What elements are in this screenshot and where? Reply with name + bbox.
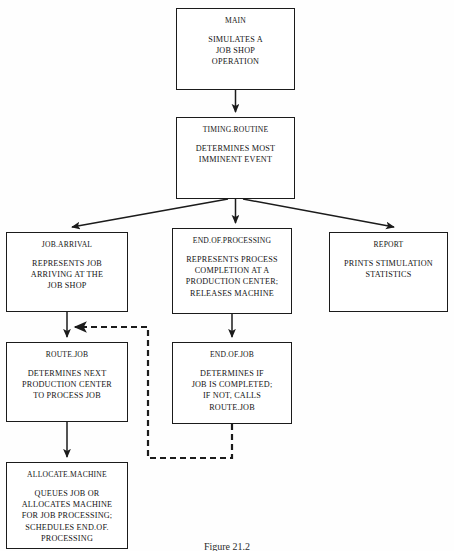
node-body-line: ALLOCATES MACHINE (22, 499, 113, 510)
node-body-line: RELEASES MACHINE (186, 288, 279, 299)
node-body-main: SIMULATES AJOB SHOPOPERATION (204, 34, 267, 68)
flowchart-canvas: MAINSIMULATES AJOB SHOPOPERATIONTIMING.R… (0, 0, 454, 551)
node-body-end-of-processing: REPRESENTS PROCESSCOMPLETION AT APRODUCT… (182, 254, 283, 299)
node-body-end-of-job: DETERMINES IFJOB IS COMPLETED;IF NOT, CA… (188, 368, 277, 413)
node-title-allocate-machine: ALLOCATE.MACHINE (27, 470, 107, 480)
node-title-report: REPORT (374, 240, 404, 250)
node-body-line: TO PROCESS JOB (22, 390, 112, 401)
node-body-job-arrival: REPRESENTS JOBARRIVING AT THEJOB SHOP (27, 258, 107, 292)
node-body-line: REPRESENTS PROCESS (186, 254, 279, 265)
node-body-line: JOB SHOP (208, 45, 263, 56)
node-title-job-arrival: JOB.ARRIVAL (42, 240, 92, 250)
node-body-line: OPERATION (208, 56, 263, 67)
node-body-line: PRODUCTION CENTER; (186, 276, 279, 287)
node-job-arrival: JOB.ARRIVALREPRESENTS JOBARRIVING AT THE… (6, 232, 128, 312)
node-body-line: DETERMINES MOST (196, 143, 276, 154)
node-title-timing-routine: TIMING.ROUTINE (203, 125, 268, 135)
node-timing-routine: TIMING.ROUTINEDETERMINES MOSTIMMINENT EV… (176, 117, 295, 199)
figure-caption: Figure 21.2 (0, 541, 454, 551)
node-body-line: SIMULATES A (208, 34, 263, 45)
node-body-allocate-machine: QUEUES JOB ORALLOCATES MACHINEFOR JOB PR… (18, 488, 117, 544)
node-body-timing-routine: DETERMINES MOSTIMMINENT EVENT (192, 143, 280, 165)
node-title-route-job: ROUTE.JOB (46, 350, 89, 360)
node-body-line: DETERMINES IF (192, 368, 273, 379)
node-main: MAINSIMULATES AJOB SHOPOPERATION (176, 8, 295, 90)
node-body-line: REPRESENTS JOB (31, 258, 103, 269)
node-body-line: DETERMINES NEXT (22, 368, 112, 379)
node-title-end-of-job: END.OF.JOB (210, 350, 254, 360)
node-route-job: ROUTE.JOBDETERMINES NEXTPRODUCTION CENTE… (6, 342, 128, 422)
node-body-line: ARRIVING AT THE (31, 269, 103, 280)
node-body-line: SCHEDULES END.OF. (22, 522, 113, 533)
node-body-line: JOB IS COMPLETED; (192, 379, 273, 390)
node-body-line: ROUTE.JOB (192, 402, 273, 413)
node-body-line: PRODUCTION CENTER (22, 379, 112, 390)
node-body-route-job: DETERMINES NEXTPRODUCTION CENTERTO PROCE… (18, 368, 116, 402)
node-body-report: PRINTS STIMULATIONSTATISTICS (340, 258, 437, 280)
node-body-line: IF NOT, CALLS (192, 390, 273, 401)
node-body-line: IMMINENT EVENT (196, 154, 276, 165)
node-body-line: QUEUES JOB OR (22, 488, 113, 499)
node-body-line: PRINTS STIMULATION (344, 258, 433, 269)
node-end-of-processing: END.OF.PROCESSINGREPRESENTS PROCESSCOMPL… (172, 228, 292, 314)
node-title-main: MAIN (225, 16, 246, 26)
node-allocate-machine: ALLOCATE.MACHINEQUEUES JOB ORALLOCATES M… (6, 462, 128, 549)
node-body-line: FOR JOB PROCESSING; (22, 510, 113, 521)
node-end-of-job: END.OF.JOBDETERMINES IFJOB IS COMPLETED;… (172, 342, 292, 424)
node-body-line: JOB SHOP (31, 280, 103, 291)
node-body-line: COMPLETION AT A (186, 265, 279, 276)
node-report: REPORTPRINTS STIMULATIONSTATISTICS (329, 232, 448, 312)
node-body-line: STATISTICS (344, 269, 433, 280)
edge-timing-to-report (243, 199, 394, 227)
node-title-end-of-processing: END.OF.PROCESSING (193, 236, 271, 246)
edge-timing-to-job-arrival (72, 199, 228, 227)
